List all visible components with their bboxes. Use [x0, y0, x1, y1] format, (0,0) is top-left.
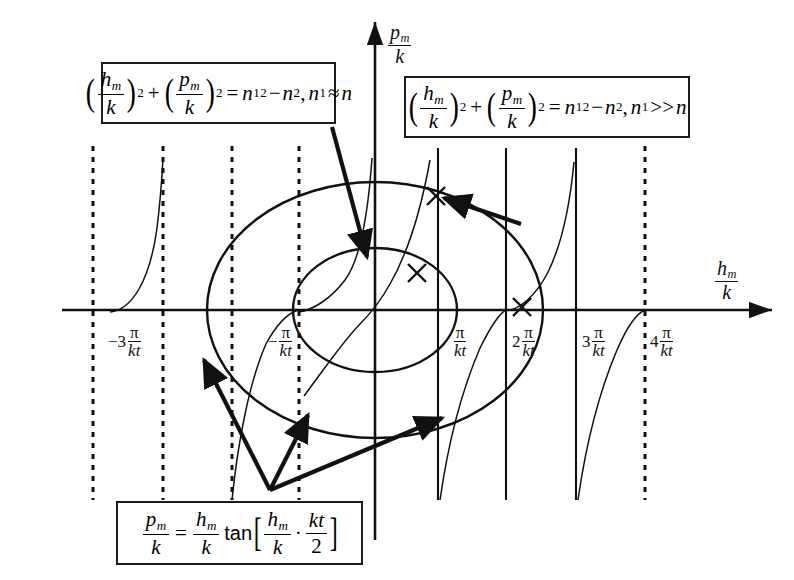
- equation-box-tangent: pm k = hm k tan [ hm k · kt 2 ]: [116, 501, 363, 565]
- tick-3pi-kt: 3 π kt: [582, 324, 607, 359]
- tangent-branch: [110, 158, 163, 312]
- x-axis-label: hm k: [715, 258, 738, 302]
- equation-text-1: ( hm k )2 + ( pm k )2 = n12 − n2 , n1 ≈ …: [85, 68, 352, 117]
- tick-pi-kt: π kt: [452, 324, 468, 359]
- equation-text-2: ( hm k )2 + ( pm k )2 = n12 − n2 , n1 >>…: [408, 82, 687, 131]
- equation-box-circle-n1-approx-n: ( hm k )2 + ( pm k )2 = n12 − n2 , n1 ≈ …: [101, 62, 336, 124]
- tick-minus-pi-kt: − π kt: [268, 324, 294, 359]
- y-axis-label: pm k: [388, 22, 411, 66]
- arrow-tangent-to-left-branch: [204, 360, 270, 490]
- equation-box-circle-n1-much-greater-n: ( hm k )2 + ( pm k )2 = n12 − n2 , n1 >>…: [404, 76, 690, 138]
- tangent-branch: [510, 162, 574, 310]
- intersection-mark-3: [513, 298, 531, 316]
- figure-root: pm k hm k −3 π kt − π kt π kt 2: [0, 0, 794, 580]
- tangent-branch: [440, 310, 506, 500]
- tick-4pi-kt: 4 π kt: [650, 324, 675, 359]
- intersection-mark-2: [408, 264, 426, 282]
- tangent-curve: [110, 158, 645, 500]
- tick-2pi-kt: 2 π kt: [512, 324, 537, 359]
- arrow-tangent-to-right-branch: [270, 418, 442, 490]
- arrow-box1-to-inner-circle: [332, 127, 367, 257]
- equation-text-3: pm k = hm k tan [ hm k · kt 2 ]: [141, 508, 339, 557]
- arrow-box2-to-outer-circle: [444, 198, 521, 224]
- tick-minus-3pi-kt: −3 π kt: [108, 324, 142, 359]
